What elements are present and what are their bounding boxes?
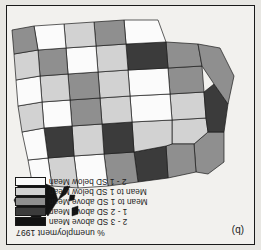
legend-item[interactable]: Mean to 1 SD above Mean [15, 197, 167, 207]
region-r10[interactable] [102, 122, 134, 154]
legend-swatch [15, 187, 46, 196]
legend-swatch [15, 197, 46, 206]
legend-item[interactable]: 2 - 1 SD below Mean [15, 177, 167, 187]
region-r22[interactable] [98, 70, 130, 98]
region-r19[interactable] [18, 102, 44, 132]
region-r35[interactable] [34, 24, 66, 50]
region-r03[interactable] [166, 144, 196, 178]
legend-title: % unemployment 1997 [15, 228, 167, 238]
region-r24[interactable] [40, 74, 70, 102]
region-r28[interactable] [96, 44, 128, 72]
region-r18[interactable] [42, 100, 72, 128]
legend-item-label: 1 - 2 SD above Mean [49, 207, 127, 216]
region-r12[interactable] [44, 126, 74, 158]
figure-panel: % unemployment 1997 2 - 3 SD above Mean … [0, 0, 261, 250]
legend-item-label: Mean to 1 SD below Mean [49, 187, 147, 196]
region-r15[interactable] [130, 94, 172, 122]
legend-swatch [15, 217, 46, 226]
legend-swatch [15, 177, 46, 186]
legend-item-label: Mean to 1 SD above Mean [49, 197, 148, 206]
legend-item[interactable]: 1 - 2 SD above Mean [15, 207, 167, 217]
map-regions [12, 20, 234, 188]
region-r14[interactable] [170, 92, 206, 120]
region-r26[interactable] [166, 42, 202, 68]
figure-plate: % unemployment 1997 2 - 3 SD above Mean … [6, 5, 255, 245]
region-r36[interactable] [12, 26, 38, 54]
region-r17[interactable] [70, 98, 102, 126]
region-r33[interactable] [94, 20, 126, 46]
legend-item[interactable]: Mean to 1 SD below Mean [15, 187, 167, 197]
region-r29[interactable] [66, 46, 98, 74]
rotated-content: % unemployment 1997 2 - 3 SD above Mean … [7, 6, 254, 244]
region-r30[interactable] [38, 48, 68, 76]
map-legend: % unemployment 1997 2 - 3 SD above Mean … [15, 177, 167, 238]
region-r20[interactable] [168, 66, 204, 94]
region-r25[interactable] [16, 76, 42, 106]
region-r21[interactable] [128, 68, 170, 96]
legend-item[interactable]: 2 - 3 SD above Mean [15, 217, 167, 227]
legend-swatch [15, 207, 46, 216]
region-r23[interactable] [68, 72, 100, 100]
legend-item-label: 2 - 3 SD above Mean [49, 217, 127, 226]
panel-label: (b) [232, 225, 244, 236]
region-r13[interactable] [22, 128, 48, 160]
region-r32[interactable] [124, 20, 166, 44]
region-r27[interactable] [126, 42, 168, 70]
region-r11[interactable] [72, 124, 104, 156]
region-r31[interactable] [14, 50, 40, 80]
region-r34[interactable] [64, 22, 96, 48]
legend-item-label: 2 - 1 SD below Mean [49, 177, 126, 186]
region-r16[interactable] [100, 96, 132, 124]
